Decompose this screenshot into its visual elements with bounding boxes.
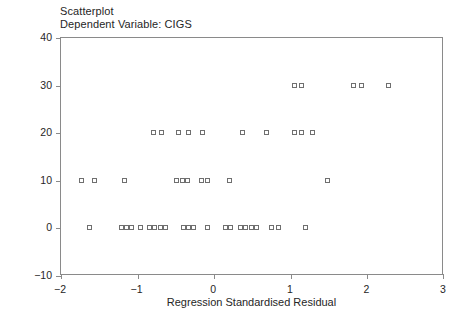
x-axis-tick-label: −2 xyxy=(54,283,66,295)
data-point xyxy=(159,130,164,135)
x-axis-tick-label: 3 xyxy=(440,283,446,295)
x-axis-tick xyxy=(61,274,62,279)
data-point xyxy=(185,178,190,183)
data-point xyxy=(228,225,233,230)
data-point xyxy=(238,225,243,230)
data-point xyxy=(158,225,163,230)
y-axis-tick xyxy=(56,133,61,134)
data-point xyxy=(325,178,330,183)
y-axis-tick xyxy=(56,86,61,87)
data-point xyxy=(227,178,232,183)
x-axis-tick xyxy=(138,274,139,279)
data-point xyxy=(205,225,210,230)
x-axis-tick xyxy=(367,274,368,279)
data-point xyxy=(163,225,168,230)
data-point xyxy=(152,225,157,230)
x-axis-tick-label: 1 xyxy=(287,283,293,295)
data-point xyxy=(205,178,210,183)
data-point xyxy=(92,178,97,183)
x-axis-tick-label: 2 xyxy=(363,283,369,295)
data-point xyxy=(180,178,185,183)
data-point xyxy=(249,225,254,230)
data-point xyxy=(119,225,124,230)
data-point xyxy=(191,225,196,230)
data-point xyxy=(264,130,269,135)
data-point xyxy=(176,130,181,135)
y-axis-tick xyxy=(56,181,61,182)
data-point xyxy=(351,83,356,88)
data-points-layer xyxy=(61,38,442,274)
data-point xyxy=(254,225,259,230)
data-point xyxy=(240,130,245,135)
y-axis-tick xyxy=(56,38,61,39)
x-axis-tick xyxy=(214,274,215,279)
data-point xyxy=(299,83,304,88)
data-point xyxy=(200,130,205,135)
data-point xyxy=(386,83,391,88)
data-point xyxy=(151,130,156,135)
data-point xyxy=(199,178,204,183)
data-point xyxy=(87,225,92,230)
data-point xyxy=(292,83,297,88)
data-point xyxy=(138,225,143,230)
data-point xyxy=(122,178,127,183)
plot-area xyxy=(60,37,443,275)
x-axis-tick xyxy=(291,274,292,279)
data-point xyxy=(186,130,191,135)
data-point xyxy=(303,225,308,230)
data-point xyxy=(299,130,304,135)
data-point xyxy=(269,225,274,230)
y-axis-tick xyxy=(56,228,61,229)
data-point xyxy=(147,225,152,230)
data-point xyxy=(129,225,134,230)
data-point xyxy=(174,178,179,183)
data-point xyxy=(243,225,248,230)
data-point xyxy=(276,225,281,230)
x-axis-title: Regression Standardised Residual xyxy=(60,296,443,308)
data-point xyxy=(181,225,186,230)
x-axis-tick xyxy=(443,274,444,279)
data-point xyxy=(359,83,364,88)
data-point xyxy=(310,130,315,135)
x-axis-tick-label: −1 xyxy=(131,283,143,295)
data-point xyxy=(223,225,228,230)
data-point xyxy=(292,130,297,135)
data-point xyxy=(186,225,191,230)
scatterplot-figure: Scatterplot Dependent Variable: CIGS CIG… xyxy=(0,0,462,319)
x-axis-tick-label: 0 xyxy=(210,283,216,295)
data-point xyxy=(124,225,129,230)
data-point xyxy=(79,178,84,183)
